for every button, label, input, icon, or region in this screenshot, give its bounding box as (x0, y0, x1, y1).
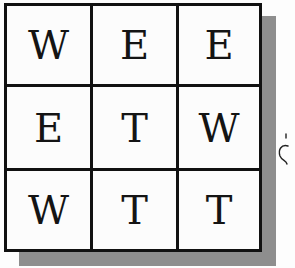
grid-cell-r1-c1: W (7, 6, 93, 87)
grid-cell-r2-c2: T (93, 87, 179, 171)
grid-cell-r3-c1: W (7, 171, 93, 249)
grid-cell-r2-c1: E (7, 87, 93, 171)
grid-cell-r2-c3: W (179, 87, 259, 171)
handwritten-mark-icon (277, 132, 291, 168)
grid-cell-r1-c2: E (93, 6, 179, 87)
grid-cell-r1-c3: E (179, 6, 259, 87)
grid-cell-r3-c3: T (179, 171, 259, 249)
letter-grid: W E E E T W W T T (4, 3, 262, 252)
grid-cell-r3-c2: T (93, 171, 179, 249)
